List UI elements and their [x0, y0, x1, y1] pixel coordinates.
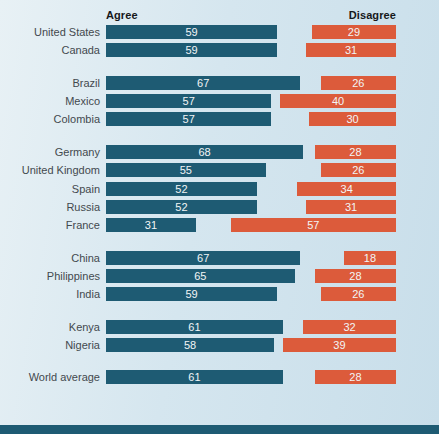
disagree-value: 26 [352, 287, 364, 301]
chart-row: Kenya6132 [0, 320, 439, 334]
country-group: Germany6828United Kingdom5526Spain5234Ru… [0, 145, 439, 233]
chart-row: United States5929 [0, 25, 439, 39]
disagree-bar: 29 [312, 25, 396, 39]
chart-row: United Kingdom5526 [0, 163, 439, 177]
bar-track: 5231 [106, 200, 396, 214]
country-label: World average [0, 370, 106, 384]
chart-area: Agree Disagree United States5929Canada59… [0, 8, 439, 389]
country-label: Philippines [0, 269, 106, 283]
country-label: Kenya [0, 320, 106, 334]
bar-track: 5730 [106, 112, 396, 126]
agree-bar: 67 [106, 76, 300, 90]
disagree-value: 26 [352, 163, 364, 177]
disagree-bar: 39 [283, 338, 396, 352]
disagree-value: 31 [345, 43, 357, 57]
chart-row: Germany6828 [0, 145, 439, 159]
country-label: Russia [0, 200, 106, 214]
bar-track: 5526 [106, 163, 396, 177]
country-label: United States [0, 25, 106, 39]
agree-value: 58 [184, 338, 196, 352]
disagree-bar: 26 [321, 76, 396, 90]
disagree-value: 40 [332, 94, 344, 108]
disagree-bar: 34 [297, 182, 396, 196]
chart-row: Brazil6726 [0, 76, 439, 90]
agree-value: 57 [183, 112, 195, 126]
agree-value: 61 [188, 370, 200, 384]
bar-track: 6726 [106, 76, 396, 90]
agree-value: 55 [180, 163, 192, 177]
agree-bar: 61 [106, 370, 283, 384]
disagree-bar: 32 [303, 320, 396, 334]
header-track: Agree Disagree [106, 8, 396, 22]
disagree-value: 39 [333, 338, 345, 352]
chart-row: Nigeria5839 [0, 338, 439, 352]
country-group: Kenya6132Nigeria5839 [0, 320, 439, 352]
agree-bar: 57 [106, 94, 271, 108]
agree-value: 59 [185, 43, 197, 57]
country-label: United Kingdom [0, 163, 106, 177]
country-label: Canada [0, 43, 106, 57]
chart-row: Spain5234 [0, 182, 439, 196]
bar-track: 3157 [106, 218, 396, 232]
agree-bar: 57 [106, 112, 271, 126]
agree-value: 68 [198, 145, 210, 159]
bar-track: 6718 [106, 251, 396, 265]
country-label: Mexico [0, 94, 106, 108]
footer-band [0, 425, 439, 434]
label-column-spacer [0, 8, 106, 22]
chart-row: China6718 [0, 251, 439, 265]
chart-row: World average6128 [0, 370, 439, 384]
agree-bar: 67 [106, 251, 300, 265]
disagree-value: 28 [349, 370, 361, 384]
country-label: Nigeria [0, 338, 106, 352]
chart-row: France3157 [0, 218, 439, 232]
bar-track: 5931 [106, 43, 396, 57]
country-group: China6718Philippines6528India5926 [0, 251, 439, 302]
bar-track: 6828 [106, 145, 396, 159]
agree-disagree-chart: Agree Disagree United States5929Canada59… [0, 0, 439, 434]
agree-bar: 59 [106, 25, 277, 39]
bar-track: 5929 [106, 25, 396, 39]
disagree-value: 31 [345, 200, 357, 214]
country-label: Germany [0, 145, 106, 159]
chart-row: Mexico5740 [0, 94, 439, 108]
agree-bar: 59 [106, 43, 277, 57]
agree-value: 59 [185, 287, 197, 301]
disagree-value: 57 [307, 218, 319, 232]
agree-bar: 68 [106, 145, 303, 159]
country-label: China [0, 251, 106, 265]
agree-bar: 61 [106, 320, 283, 334]
disagree-bar: 28 [315, 269, 396, 283]
chart-row: India5926 [0, 287, 439, 301]
agree-value: 57 [183, 94, 195, 108]
country-group: United States5929Canada5931 [0, 25, 439, 57]
bar-track: 5926 [106, 287, 396, 301]
agree-value: 52 [175, 182, 187, 196]
disagree-value: 32 [343, 320, 355, 334]
bar-track: 6132 [106, 320, 396, 334]
disagree-bar: 57 [231, 218, 396, 232]
disagree-value: 18 [364, 251, 376, 265]
disagree-bar: 31 [306, 200, 396, 214]
agree-bar: 59 [106, 287, 277, 301]
country-group: World average6128 [0, 370, 439, 384]
disagree-bar: 28 [315, 145, 396, 159]
bar-track: 6128 [106, 370, 396, 384]
chart-groups: United States5929Canada5931Brazil6726Mex… [0, 25, 439, 384]
bar-track: 5839 [106, 338, 396, 352]
disagree-bar: 40 [280, 94, 396, 108]
agree-bar: 31 [106, 218, 196, 232]
disagree-value: 29 [348, 25, 360, 39]
disagree-value: 30 [346, 112, 358, 126]
country-label: Spain [0, 182, 106, 196]
agree-bar: 52 [106, 200, 257, 214]
bar-track: 6528 [106, 269, 396, 283]
country-label: France [0, 218, 106, 232]
agree-value: 67 [197, 251, 209, 265]
bar-track: 5234 [106, 182, 396, 196]
agree-bar: 52 [106, 182, 257, 196]
disagree-value: 26 [352, 76, 364, 90]
chart-row: Russia5231 [0, 200, 439, 214]
agree-value: 65 [194, 269, 206, 283]
country-label: India [0, 287, 106, 301]
